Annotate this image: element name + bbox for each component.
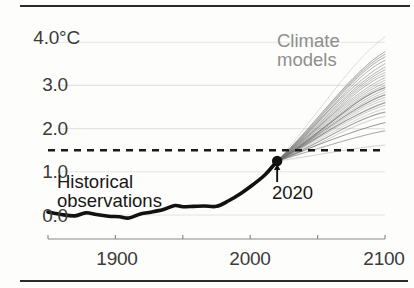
historical-label-line1: Historical — [57, 172, 162, 191]
climate-models-label: Climate models — [277, 31, 340, 70]
x-tick-label-1900: 1900 — [87, 248, 147, 270]
x-tick-label-2100: 2100 — [355, 248, 413, 270]
y-tick-label-4: 4.0°C — [8, 27, 80, 49]
chart-figure: 4.0°C 3.0 2.0 1.0 0.0 1900 2000 2100 His… — [0, 0, 414, 288]
y-tick-label-2: 2.0 — [8, 118, 68, 140]
models-label-line1: Climate — [277, 31, 340, 50]
x-axis — [48, 235, 385, 239]
historical-observations-label: Historical observations — [57, 172, 162, 211]
historical-label-line2: observations — [57, 191, 162, 210]
y-tick-label-3: 3.0 — [8, 74, 68, 96]
marker-dot — [272, 156, 282, 166]
x-tick-label-2000: 2000 — [220, 248, 280, 270]
year-2020-marker — [272, 156, 282, 182]
models-label-line2: models — [277, 50, 340, 69]
marker-year-label: 2020 — [272, 183, 313, 202]
